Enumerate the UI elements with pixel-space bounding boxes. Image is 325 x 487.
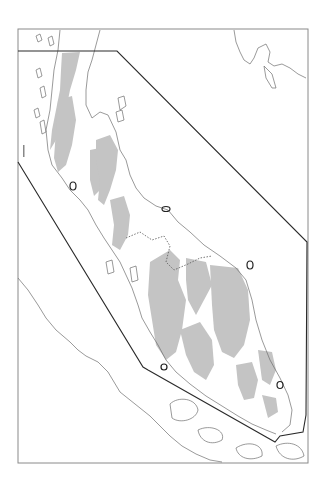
map-figure <box>0 0 325 487</box>
scale-mark <box>23 145 25 157</box>
